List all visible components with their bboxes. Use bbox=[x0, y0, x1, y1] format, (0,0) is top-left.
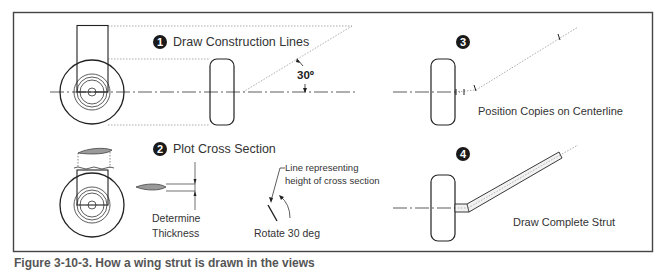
step-1-label: Draw Construction Lines bbox=[173, 36, 309, 49]
rotate-label: Rotate 30 deg bbox=[254, 228, 320, 239]
angle-label: 30º bbox=[297, 70, 314, 82]
height-label-line1: Line representing bbox=[285, 163, 358, 173]
step-1-badge: 1 bbox=[153, 35, 167, 49]
step-3-label: Position Copies on Centerline bbox=[478, 106, 623, 117]
step-3-badge: 3 bbox=[456, 35, 470, 49]
step-4-badge: 4 bbox=[456, 147, 470, 161]
figure-caption: Figure 3-10-3. How a wing strut is drawn… bbox=[14, 256, 315, 270]
step-2-badge: 2 bbox=[153, 142, 167, 156]
step-2-label: Plot Cross Section bbox=[173, 143, 276, 156]
thickness-label-line1: Determine bbox=[152, 213, 200, 224]
step-4-label: Draw Complete Strut bbox=[513, 217, 615, 228]
thickness-label-line2: Thickness bbox=[152, 228, 199, 239]
height-label-line2: height of cross section bbox=[285, 176, 380, 186]
